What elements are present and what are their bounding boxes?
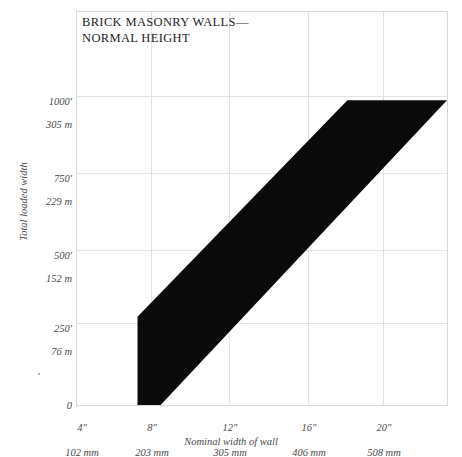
x-tick-12in-secondary: 305 mm bbox=[213, 447, 247, 457]
x-tick-4in-secondary: 102 mm bbox=[65, 447, 99, 457]
chart-title: BRICK MASONRY WALLS— NORMAL HEIGHT bbox=[82, 15, 332, 46]
y-tick-250-primary: 250′ bbox=[54, 323, 72, 334]
y-tick-750-secondary: 229 m bbox=[46, 196, 72, 207]
y-axis-ticks: 1000′ 305 m 750′ 229 m 500′ 152 m 250′ 7… bbox=[0, 0, 72, 457]
plot-area bbox=[76, 11, 448, 406]
y-tick-250-secondary: 76 m bbox=[51, 346, 72, 357]
y-tick-750: 750′ 229 m bbox=[0, 161, 72, 207]
y-tick-1000-secondary: 305 m bbox=[46, 119, 72, 130]
y-tick-1000: 1000′ 305 m bbox=[0, 84, 72, 130]
y-tick-0: 0 bbox=[0, 388, 72, 411]
x-tick-16in-secondary: 406 mm bbox=[292, 447, 326, 457]
x-tick-4in-primary: 4″ bbox=[77, 422, 87, 433]
x-tick-20in-secondary: 508 mm bbox=[367, 447, 401, 457]
x-tick-8in-secondary: 203 mm bbox=[135, 447, 169, 457]
y-tick-500: 500′ 152 m bbox=[0, 238, 72, 284]
x-tick-8in: 8″ 203 mm bbox=[107, 409, 197, 457]
x-tick-20in: 20″ 508 mm bbox=[339, 409, 429, 457]
x-tick-12in: 12″ 305 mm bbox=[185, 409, 275, 457]
y-tick-500-secondary: 152 m bbox=[46, 273, 72, 284]
x-tick-16in-primary: 16″ bbox=[302, 422, 317, 433]
y-tick-250: 250′ 76 m bbox=[0, 311, 72, 357]
y-tick-1000-primary: 1000′ bbox=[49, 96, 72, 107]
y-axis-label: Total loaded width bbox=[18, 137, 29, 267]
data-band bbox=[77, 12, 447, 405]
x-tick-8in-primary: 8″ bbox=[147, 422, 157, 433]
x-tick-20in-primary: 20″ bbox=[377, 422, 392, 433]
chart-figure: BRICK MASONRY WALLS— NORMAL HEIGHT 1000′… bbox=[0, 0, 462, 457]
y-tick-500-primary: 500′ bbox=[54, 250, 72, 261]
scan-speck bbox=[38, 373, 40, 375]
x-axis-label: Nominal width of wall bbox=[0, 436, 462, 447]
y-tick-750-primary: 750′ bbox=[54, 173, 72, 184]
x-tick-12in-primary: 12″ bbox=[223, 422, 238, 433]
